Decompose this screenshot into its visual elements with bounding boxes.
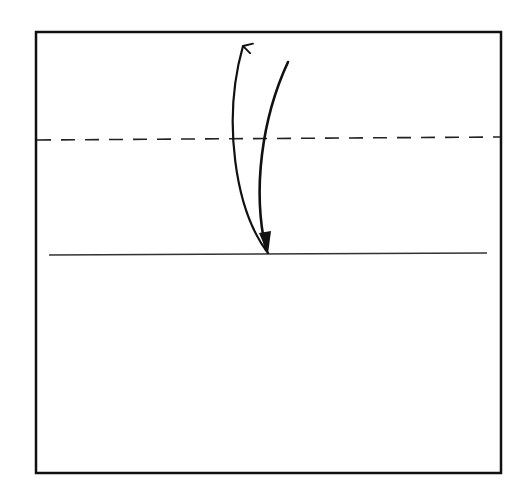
fold-diagram (0, 0, 521, 496)
